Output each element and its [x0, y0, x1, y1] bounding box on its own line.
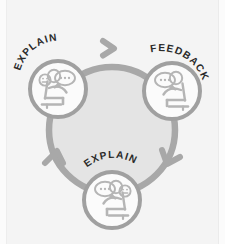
node-circle	[84, 172, 140, 228]
node-circle	[144, 63, 200, 119]
node-feedback-top-right[interactable]: FEEDBACK	[144, 42, 211, 119]
node-circle	[30, 61, 86, 117]
arrow-top-icon	[103, 41, 114, 56]
image-canvas: EXPLAIN FEEDBACK	[0, 0, 225, 244]
node-explain-top-left[interactable]: EXPLAIN	[12, 32, 86, 117]
cycle-diagram: EXPLAIN FEEDBACK	[0, 0, 225, 244]
